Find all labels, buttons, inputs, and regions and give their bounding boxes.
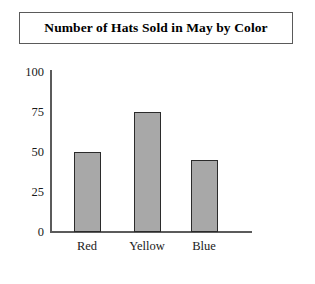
y-tick-label: 25	[14, 186, 44, 199]
bar-blue	[191, 160, 218, 232]
y-axis-line	[50, 70, 52, 233]
y-tick-label: 50	[14, 146, 44, 159]
x-axis-label-blue: Blue	[169, 240, 239, 254]
y-tick-label: 0	[14, 226, 44, 239]
bar-red	[74, 152, 101, 232]
y-tick-label: 100	[14, 66, 44, 79]
y-tick-label: 75	[14, 106, 44, 119]
bar-yellow	[134, 112, 161, 232]
plot-area: 0 25 50 75 100 Red Yellow Blue	[0, 0, 315, 284]
bar-chart-figure: Number of Hats Sold in May by Color 0 25…	[0, 0, 315, 284]
